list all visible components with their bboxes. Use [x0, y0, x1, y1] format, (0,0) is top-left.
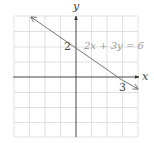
equation-label: 2x + 3y = 6	[83, 40, 144, 51]
x-intercept-label: 3	[119, 81, 126, 94]
graph-canvas: y x 2 3 2x + 3y = 6	[0, 0, 154, 143]
y-axis-label: y	[72, 0, 80, 13]
equation-line-start-arrow	[31, 17, 34, 19]
y-intercept-label: 2	[64, 40, 71, 53]
x-axis-label: x	[142, 70, 149, 83]
equation-line-end-arrow	[124, 81, 138, 89]
